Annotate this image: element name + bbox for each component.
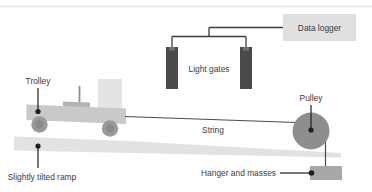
light-gate-left xyxy=(166,47,178,89)
pulley-label: Pulley xyxy=(300,93,324,103)
hanger-leader-dot xyxy=(309,170,315,176)
hanger-group xyxy=(310,166,342,180)
slightly-tilted-ramp-label: Slightly tilted ramp xyxy=(8,172,77,182)
trolley-front-wheel-hub xyxy=(106,124,114,132)
string-label: String xyxy=(202,125,224,135)
light-gate-right-connector xyxy=(243,47,249,51)
diagram-svg: Data logger Light gates xyxy=(0,0,372,192)
data-logger-group[interactable]: Data logger xyxy=(283,14,356,41)
light-gate-right xyxy=(240,47,252,89)
light-gates-group: Light gates xyxy=(166,47,252,89)
hanger-and-masses-block xyxy=(310,166,342,180)
string-horizontal-segment xyxy=(125,117,311,124)
trolley-group xyxy=(27,79,127,137)
wiring-group xyxy=(172,28,283,48)
pulley-leader-dot xyxy=(308,127,313,132)
trolley-mast-rod xyxy=(79,86,81,102)
ramp-group xyxy=(14,137,341,158)
trolley-rear-wheel-hub xyxy=(35,120,43,128)
slightly-tilted-ramp-shape xyxy=(14,137,341,158)
trolley-label: Trolley xyxy=(26,76,52,86)
trolley-leader-dot xyxy=(35,109,40,114)
hanger-and-masses-label: Hanger and masses xyxy=(201,168,276,178)
leader-lines-group xyxy=(35,88,314,176)
data-logger-label: Data logger xyxy=(298,23,342,33)
light-gates-label: Light gates xyxy=(189,64,230,74)
physics-diagram-canvas: Data logger Light gates xyxy=(0,0,372,192)
light-gate-left-connector xyxy=(169,47,175,51)
